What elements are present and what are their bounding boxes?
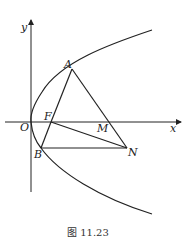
point-a-label: A: [63, 58, 72, 71]
point-m-label: M: [96, 122, 109, 135]
y-axis-label: y: [20, 21, 28, 34]
point-n-label: N: [127, 146, 138, 159]
point-f-label: F: [43, 110, 52, 123]
segment-fn: [51, 122, 127, 148]
figure-caption: 图 11.23: [67, 227, 109, 238]
segment-fb: [41, 122, 51, 148]
x-axis-label: x: [170, 122, 177, 135]
diagram-canvas: y x O A F M B N 图 11.23: [0, 0, 191, 244]
origin-label: O: [20, 121, 29, 134]
segment-an: [72, 69, 127, 148]
point-b-label: B: [33, 148, 42, 161]
